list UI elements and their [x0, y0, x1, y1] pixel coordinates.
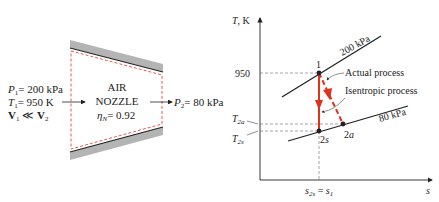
- point-2s-label: 2s: [320, 134, 329, 145]
- point-1: [317, 71, 322, 76]
- x-axis-label: s: [426, 185, 430, 196]
- point-2s: [317, 129, 322, 134]
- inlet-temperature: T1= 950 K: [8, 96, 54, 110]
- tick-s: s2s = s1: [305, 185, 333, 198]
- figure: P1= 200 kPa T1= 950 K V1 ≪ V2 AIR NOZZLE…: [0, 0, 439, 202]
- isobar-80kpa-label: 80 kPa: [378, 106, 408, 124]
- outlet-pressure: P2= 80 kPa: [173, 96, 224, 110]
- point-2a: [341, 122, 346, 127]
- tick-t2s: T2s: [232, 133, 244, 146]
- nozzle-label-air: AIR: [108, 81, 128, 93]
- tick-950: 950: [235, 68, 250, 79]
- point-2a-label: 2a: [344, 129, 354, 140]
- point-1-label: 1: [316, 59, 321, 70]
- velocity-relation: V1 ≪ V2: [8, 109, 49, 123]
- actual-process-line: [319, 73, 343, 124]
- annotation-actual-process: Actual process: [345, 67, 404, 78]
- nozzle-efficiency: ηN= 0.92: [97, 109, 135, 123]
- inlet-pressure: P1= 200 kPa: [7, 83, 63, 97]
- tick-t2a: T2a: [232, 113, 245, 126]
- y-axis-label: T, K: [232, 15, 251, 26]
- nozzle-label-nozzle: NOZZLE: [96, 95, 139, 107]
- nozzle-top-wall: [70, 40, 163, 72]
- ts-diagram: T, K s 950 T2a T2s s2s = s1 200 kPa 80 k…: [232, 15, 432, 198]
- nozzle-bottom-wall: [70, 127, 163, 160]
- annotation-isentropic-process: Isentropic process: [345, 85, 418, 96]
- nozzle-diagram: P1= 200 kPa T1= 950 K V1 ≪ V2 AIR NOZZLE…: [7, 40, 224, 160]
